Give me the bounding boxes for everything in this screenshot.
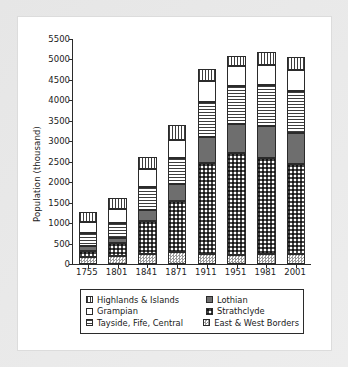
bar-segment-tayside-fife-central[interactable] xyxy=(108,223,126,238)
bar-1951[interactable] xyxy=(227,56,245,264)
legend-item-strathclyde[interactable]: Strathclyde xyxy=(206,306,265,316)
bar-segment-tayside-fife-central[interactable] xyxy=(138,187,156,210)
y-axis-tick-1500: 1500 xyxy=(48,198,70,208)
x-axis-tick-1755: 1755 xyxy=(76,267,98,277)
y-axis-tick-4000: 4000 xyxy=(48,95,70,105)
bar-1755[interactable] xyxy=(79,212,97,264)
x-axis-tick-1801: 1801 xyxy=(106,267,128,277)
bar-segment-east-west-borders[interactable] xyxy=(168,252,186,264)
legend-label: East & West Borders xyxy=(214,318,299,328)
bar-segment-strathclyde[interactable] xyxy=(108,243,126,256)
legend-item-grampian[interactable]: Grampian xyxy=(86,306,206,316)
bar-segment-lothian[interactable] xyxy=(227,124,245,153)
bar-1871[interactable] xyxy=(168,125,186,264)
y-tick-mark xyxy=(69,59,73,60)
bar-segment-highlands-islands[interactable] xyxy=(198,69,216,81)
bar-segment-east-west-borders[interactable] xyxy=(287,254,305,264)
y-axis-tick-4500: 4500 xyxy=(48,75,70,85)
bar-segment-east-west-borders[interactable] xyxy=(108,256,126,264)
y-axis-tick-2000: 2000 xyxy=(48,177,70,187)
x-axis-tick-1841: 1841 xyxy=(136,267,158,277)
chart-legend: Highlands & IslandsLothianGrampianStrath… xyxy=(80,289,304,334)
bar-segment-tayside-fife-central[interactable] xyxy=(198,102,216,137)
chart-container: Population (thousand) 050010001500200025… xyxy=(18,17,331,350)
legend-label: Tayside, Fife, Central xyxy=(97,318,183,328)
y-tick-mark xyxy=(69,203,73,204)
legend-row: Highlands & IslandsLothian xyxy=(86,295,299,305)
bar-segment-strathclyde[interactable] xyxy=(168,201,186,253)
legend-row: GrampianStrathclyde xyxy=(86,306,299,316)
bar-segment-highlands-islands[interactable] xyxy=(79,212,97,222)
x-axis-tick-1981: 1981 xyxy=(255,267,277,277)
bar-segment-tayside-fife-central[interactable] xyxy=(287,91,305,133)
bar-segment-highlands-islands[interactable] xyxy=(227,56,245,66)
bar-2001[interactable] xyxy=(287,57,305,264)
bar-1841[interactable] xyxy=(138,157,156,264)
bar-segment-highlands-islands[interactable] xyxy=(287,57,305,70)
bar-segment-grampian[interactable] xyxy=(79,222,97,233)
bar-segment-grampian[interactable] xyxy=(287,70,305,91)
bar-segment-strathclyde[interactable] xyxy=(257,158,275,254)
x-axis-tick-1911: 1911 xyxy=(195,267,217,277)
legend-swatch-icon xyxy=(86,319,93,326)
bar-1911[interactable] xyxy=(198,69,216,264)
bar-segment-east-west-borders[interactable] xyxy=(198,254,216,264)
bar-segment-lothian[interactable] xyxy=(168,184,186,200)
bar-segment-lothian[interactable] xyxy=(79,246,97,251)
bar-segment-strathclyde[interactable] xyxy=(287,164,305,254)
legend-item-tayside-fife-central[interactable]: Tayside, Fife, Central xyxy=(86,318,203,328)
bar-segment-strathclyde[interactable] xyxy=(198,163,216,254)
bar-segment-highlands-islands[interactable] xyxy=(138,157,156,169)
bar-segment-lothian[interactable] xyxy=(138,210,156,221)
y-tick-mark xyxy=(69,39,73,40)
legend-item-highlands-islands[interactable]: Highlands & Islands xyxy=(86,295,206,305)
y-tick-mark xyxy=(69,244,73,245)
bar-segment-strathclyde[interactable] xyxy=(138,221,156,254)
y-tick-mark xyxy=(69,141,73,142)
legend-label: Strathclyde xyxy=(217,306,265,316)
bar-segment-strathclyde[interactable] xyxy=(227,153,245,254)
bar-segment-tayside-fife-central[interactable] xyxy=(168,158,186,184)
legend-swatch-icon xyxy=(203,319,210,326)
y-axis-tick-labels: 0500100015002000250030003500400045005000… xyxy=(36,35,70,267)
y-tick-mark xyxy=(69,121,73,122)
bar-segment-highlands-islands[interactable] xyxy=(257,52,275,65)
bar-segment-strathclyde[interactable] xyxy=(79,251,97,257)
bar-segment-lothian[interactable] xyxy=(198,137,216,163)
y-tick-mark xyxy=(69,264,73,265)
y-axis-tick-2500: 2500 xyxy=(48,157,70,167)
x-axis-tick-labels: 17551801184118711911195119812001 xyxy=(72,267,310,283)
legend-item-east-west-borders[interactable]: East & West Borders xyxy=(203,318,299,328)
bar-segment-highlands-islands[interactable] xyxy=(108,198,126,209)
bar-segment-east-west-borders[interactable] xyxy=(257,254,275,264)
bar-segment-tayside-fife-central[interactable] xyxy=(227,86,245,124)
bar-segment-grampian[interactable] xyxy=(198,81,216,102)
y-axis-tick-5000: 5000 xyxy=(48,54,70,64)
bar-segment-east-west-borders[interactable] xyxy=(138,254,156,264)
plot-area xyxy=(72,39,311,265)
y-tick-mark xyxy=(69,223,73,224)
bar-segment-grampian[interactable] xyxy=(138,169,156,187)
bar-segment-tayside-fife-central[interactable] xyxy=(257,85,275,126)
legend-row: Tayside, Fife, CentralEast & West Border… xyxy=(86,318,299,328)
legend-swatch-icon xyxy=(86,308,93,315)
legend-item-lothian[interactable]: Lothian xyxy=(206,295,248,305)
bar-segment-grampian[interactable] xyxy=(168,140,186,159)
chart-card: Population (thousand) 050010001500200025… xyxy=(17,16,332,351)
bar-segment-grampian[interactable] xyxy=(257,65,275,85)
y-axis-tick-1000: 1000 xyxy=(48,218,70,228)
bar-segment-grampian[interactable] xyxy=(227,66,245,86)
bar-1801[interactable] xyxy=(108,198,126,264)
x-axis-tick-2001: 2001 xyxy=(284,267,306,277)
bar-segment-east-west-borders[interactable] xyxy=(227,255,245,264)
bar-1981[interactable] xyxy=(257,52,275,264)
y-tick-mark xyxy=(69,182,73,183)
y-axis-tick-500: 500 xyxy=(54,239,70,249)
bar-segment-grampian[interactable] xyxy=(108,209,126,223)
bar-segment-lothian[interactable] xyxy=(287,133,305,165)
x-axis-tick-1871: 1871 xyxy=(165,267,187,277)
bar-segment-lothian[interactable] xyxy=(108,238,126,244)
bar-segment-tayside-fife-central[interactable] xyxy=(79,233,97,247)
bar-segment-lothian[interactable] xyxy=(257,126,275,158)
bar-segment-highlands-islands[interactable] xyxy=(168,125,186,139)
